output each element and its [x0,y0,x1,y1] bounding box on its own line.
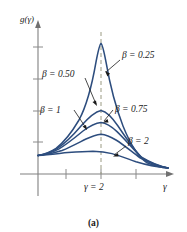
x-axis-label: γ [163,182,167,192]
label-beta-0-75: β = 0.75 [114,104,148,114]
figure-container: g(γ) γ γ = 2 β = 0.25 β = 0.50 β = 1 β =… [0,0,187,232]
x-axis-arrow-icon [166,171,174,177]
curve-beta-2 [38,151,168,168]
leader-beta-0-25 [106,60,120,72]
label-beta-0-25: β = 0.25 [121,50,155,60]
resonance-curves-plot: g(γ) γ γ = 2 β = 0.25 β = 0.50 β = 1 β =… [0,0,187,232]
label-beta-2: β = 2 [127,136,149,146]
gamma-2-marker-label: γ = 2 [84,182,104,192]
y-axis-arrow-icon [35,20,41,28]
label-beta-1: β = 1 [39,105,61,115]
leader-beta-2 [114,146,126,155]
figure-caption: (a) [0,218,187,228]
label-beta-0-50: β = 0.50 [41,69,75,79]
y-axis-label: g(γ) [20,14,34,24]
leader-arrow-beta-0-50-icon [93,101,98,107]
